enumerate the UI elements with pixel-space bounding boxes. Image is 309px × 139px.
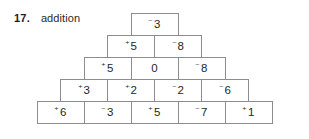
- minus-sign: ⁻: [195, 106, 200, 115]
- pyramid-row: ⁻3: [0, 13, 309, 36]
- minus-sign: ⁻: [101, 106, 106, 115]
- pyramid-cell[interactable]: ⁻6: [201, 79, 249, 102]
- pyramid-cell[interactable]: ⁺6: [37, 101, 85, 124]
- pyramid-row: ⁺6⁻3⁺5⁻7⁺1: [0, 101, 309, 124]
- pyramid-cell-magnitude: 3: [154, 19, 161, 31]
- pyramid-cell-value: ⁻7: [195, 107, 208, 119]
- minus-sign: ⁻: [172, 40, 177, 49]
- pyramid-cell-value: ⁻3: [148, 19, 161, 31]
- pyramid-cell-value: ⁻8: [195, 63, 208, 75]
- pyramid-cell-value: ⁺5: [125, 41, 138, 53]
- pyramid-cell-magnitude: 5: [107, 63, 114, 75]
- minus-sign: ⁻: [219, 84, 224, 93]
- minus-sign: ⁻: [148, 18, 153, 27]
- pyramid-cell[interactable]: ⁻2: [154, 79, 202, 102]
- pyramid-cell-magnitude: 5: [131, 41, 138, 53]
- pyramid-cell[interactable]: ⁺1: [225, 101, 273, 124]
- pyramid-cell-magnitude: 2: [131, 85, 138, 97]
- worksheet-exercise: 17. addition ⁻3⁺5⁻8⁺50⁻8⁺3⁺2⁻2⁻6⁺6⁻3⁺5⁻7…: [0, 0, 309, 139]
- pyramid-cell-value: ⁺3: [78, 85, 91, 97]
- pyramid-cell-magnitude: 7: [201, 107, 208, 119]
- pyramid-cell[interactable]: ⁺5: [84, 57, 132, 80]
- plus-sign: ⁺: [125, 40, 130, 49]
- minus-sign: ⁻: [172, 84, 177, 93]
- plus-sign: ⁺: [101, 62, 106, 71]
- pyramid-cell-magnitude: 5: [154, 107, 161, 119]
- pyramid-cell-magnitude: 6: [225, 85, 232, 97]
- pyramid-cell-magnitude: 1: [248, 107, 255, 119]
- pyramid-cell[interactable]: ⁻8: [178, 57, 226, 80]
- plus-sign: ⁺: [242, 106, 247, 115]
- pyramid-cell[interactable]: ⁺3: [60, 79, 108, 102]
- pyramid-cell-magnitude: 3: [84, 85, 91, 97]
- addition-pyramid: ⁻3⁺5⁻8⁺50⁻8⁺3⁺2⁻2⁻6⁺6⁻3⁺5⁻7⁺1: [0, 13, 309, 124]
- pyramid-cell[interactable]: 0: [131, 57, 179, 80]
- pyramid-cell-magnitude: 6: [60, 107, 67, 119]
- pyramid-cell-magnitude: 0: [151, 63, 158, 75]
- pyramid-cell[interactable]: ⁻7: [178, 101, 226, 124]
- pyramid-cell[interactable]: ⁺5: [107, 35, 155, 58]
- pyramid-cell-magnitude: 3: [107, 107, 114, 119]
- pyramid-cell[interactable]: ⁺5: [131, 101, 179, 124]
- pyramid-cell[interactable]: ⁻3: [84, 101, 132, 124]
- minus-sign: ⁻: [195, 62, 200, 71]
- pyramid-row: ⁺5⁻8: [0, 35, 309, 58]
- pyramid-cell-magnitude: 8: [178, 41, 185, 53]
- pyramid-cell-value: ⁺2: [125, 85, 138, 97]
- plus-sign: ⁺: [54, 106, 59, 115]
- pyramid-cell-value: ⁺1: [242, 107, 255, 119]
- pyramid-cell-value: ⁺5: [148, 107, 161, 119]
- plus-sign: ⁺: [125, 84, 130, 93]
- pyramid-cell-value: ⁻8: [172, 41, 185, 53]
- pyramid-row: ⁺50⁻8: [0, 57, 309, 80]
- pyramid-cell-value: ⁺6: [54, 107, 67, 119]
- pyramid-cell-magnitude: 8: [201, 63, 208, 75]
- pyramid-cell-value: ⁻2: [172, 85, 185, 97]
- pyramid-cell-value: 0: [151, 63, 158, 75]
- pyramid-cell[interactable]: ⁻3: [131, 13, 179, 36]
- pyramid-cell-value: ⁻6: [219, 85, 232, 97]
- pyramid-cell[interactable]: ⁺2: [107, 79, 155, 102]
- pyramid-cell-magnitude: 2: [178, 85, 185, 97]
- plus-sign: ⁺: [148, 106, 153, 115]
- plus-sign: ⁺: [78, 84, 83, 93]
- pyramid-cell[interactable]: ⁻8: [154, 35, 202, 58]
- pyramid-cell-value: ⁻3: [101, 107, 114, 119]
- pyramid-row: ⁺3⁺2⁻2⁻6: [0, 79, 309, 102]
- pyramid-cell-value: ⁺5: [101, 63, 114, 75]
